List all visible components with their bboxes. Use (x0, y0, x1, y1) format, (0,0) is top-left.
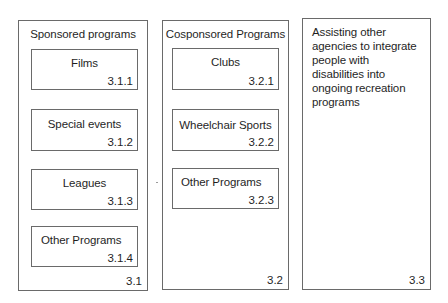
box-clubs: Clubs 3.2.1 (172, 48, 279, 90)
box-label: Other Programs (181, 176, 278, 188)
column-number: 3.2 (267, 274, 283, 286)
box-other-programs: Other Programs 3.1.4 (31, 226, 138, 267)
box-number: 3.1.2 (107, 136, 133, 148)
box-number: 3.1.4 (107, 252, 133, 264)
box-number: 3.2.3 (248, 194, 274, 206)
box-label: Other Programs (41, 234, 137, 246)
box-label: Wheelchair Sports (173, 119, 278, 131)
box-films: Films 3.1.1 (31, 49, 138, 90)
box-label: Leagues (32, 177, 137, 189)
column-description: Assisting other agencies to integrate pe… (312, 25, 424, 109)
scan-artifact (156, 182, 158, 183)
column-number: 3.1 (126, 275, 142, 287)
column-title: Cosponsored Programs (163, 28, 288, 40)
column-number: 3.3 (409, 274, 425, 286)
box-number: 3.2.1 (248, 75, 274, 87)
box-wheelchair-sports: Wheelchair Sports 3.2.2 (172, 109, 279, 151)
box-label: Special events (32, 118, 137, 130)
column-cosponsored-programs: Cosponsored Programs Clubs 3.2.1 Wheelch… (162, 20, 289, 290)
box-number: 3.1.3 (107, 195, 133, 207)
box-label: Clubs (173, 56, 278, 68)
box-number: 3.2.2 (248, 136, 274, 148)
box-leagues: Leagues 3.1.3 (31, 169, 138, 210)
box-number: 3.1.1 (107, 75, 133, 87)
column-assisting-agencies: Assisting other agencies to integrate pe… (302, 18, 431, 290)
column-title: Sponsored programs (19, 28, 147, 40)
box-label: Films (32, 57, 137, 69)
box-special-events: Special events 3.1.2 (31, 109, 138, 151)
box-other-programs: Other Programs 3.2.3 (172, 168, 279, 209)
column-sponsored-programs: Sponsored programs Films 3.1.1 Special e… (18, 20, 148, 291)
